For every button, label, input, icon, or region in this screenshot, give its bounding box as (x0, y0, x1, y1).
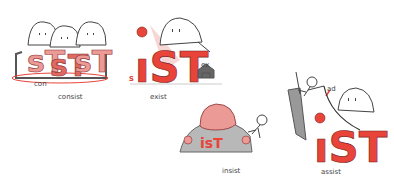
svg-text:isT: isT (200, 135, 223, 151)
prefix-label-ex: ex (201, 61, 209, 69)
assist-illustration: ıST (280, 60, 394, 182)
svg-text:ıST: ıST (314, 123, 388, 172)
svg-text:ıST: ıST (135, 43, 209, 92)
panel-insist: isT insist (170, 90, 280, 182)
word-label-insist: insist (222, 167, 240, 175)
prefix-label-con: con (34, 80, 47, 88)
panel-assist: ıST ad assist (280, 60, 394, 182)
word-label-assist: assist (321, 168, 341, 176)
prefix-label-ad: ad (327, 85, 336, 93)
small-s: s (129, 74, 134, 83)
svg-text:sT: sT (74, 44, 113, 79)
word-label-consist: consist (58, 93, 83, 101)
word-label-exist: exist (150, 93, 167, 101)
panel-consist: sT sT sT con consist (0, 0, 120, 110)
